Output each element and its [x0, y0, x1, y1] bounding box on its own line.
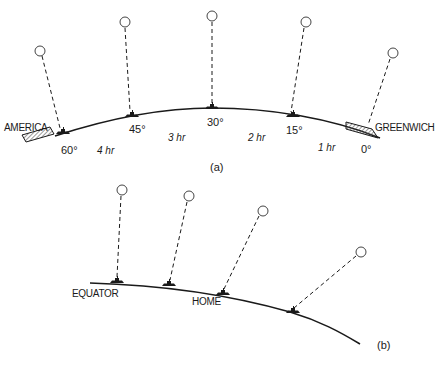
diagram-canvas: AMERICA GREENWICH	[0, 0, 438, 366]
balloon-icon	[301, 17, 311, 27]
degree-label-0: 0°	[361, 143, 372, 155]
station-3	[216, 206, 268, 295]
ship-icon	[286, 306, 300, 313]
balloon-icon	[35, 46, 45, 56]
ship-icon	[205, 102, 219, 109]
hour-label-1: 1 hr	[318, 142, 336, 153]
station-30	[205, 11, 219, 109]
hour-label-3: 3 hr	[168, 132, 186, 143]
station-0	[368, 48, 398, 125]
degree-label-60: 60°	[61, 144, 78, 156]
station-4	[286, 247, 366, 313]
ship-icon	[56, 127, 70, 134]
america-label: AMERICA	[4, 122, 48, 133]
home-label: HOME	[192, 296, 221, 307]
balloon-icon	[388, 48, 398, 58]
ship-icon	[216, 288, 230, 295]
greenwich-label: GREENWICH	[375, 122, 435, 133]
station-60	[35, 46, 70, 134]
figure-a: AMERICA GREENWICH	[4, 11, 435, 173]
hour-label-4: 4 hr	[97, 145, 115, 156]
ship-icon	[125, 110, 139, 117]
balloon-icon	[356, 247, 366, 257]
degree-label-15: 15°	[286, 124, 303, 136]
hour-label-2: 2 hr	[247, 132, 266, 143]
balloon-icon	[184, 191, 194, 201]
caption-b: (b)	[377, 339, 390, 351]
station-2	[162, 191, 194, 286]
station-1	[110, 185, 127, 283]
balloon-icon	[207, 11, 217, 21]
degree-label-30: 30°	[207, 116, 224, 128]
diagram-svg: AMERICA GREENWICH	[0, 0, 438, 366]
greenwich-landmass	[346, 122, 378, 138]
degree-label-45: 45°	[129, 123, 146, 135]
balloon-icon	[120, 17, 130, 27]
station-15	[286, 17, 311, 117]
caption-a: (a)	[210, 161, 223, 173]
ship-icon	[110, 276, 124, 283]
balloon-icon	[258, 206, 268, 216]
equator-label: EQUATOR	[72, 288, 119, 299]
station-45	[120, 17, 139, 117]
ship-icon	[162, 279, 176, 286]
balloon-icon	[117, 185, 127, 195]
figure-b: EQUATOR HOME (b)	[72, 185, 390, 351]
